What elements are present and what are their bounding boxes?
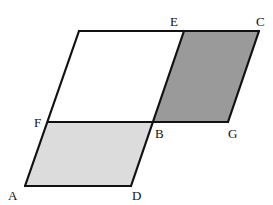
label-e: E [170,14,178,29]
label-a: A [8,188,18,203]
label-f: F [34,115,41,130]
label-b: B [155,126,164,141]
label-g: G [228,126,237,141]
label-d: D [132,188,141,203]
geometry-diagram: A D F B G E C [0,0,273,205]
label-c: C [256,14,265,29]
